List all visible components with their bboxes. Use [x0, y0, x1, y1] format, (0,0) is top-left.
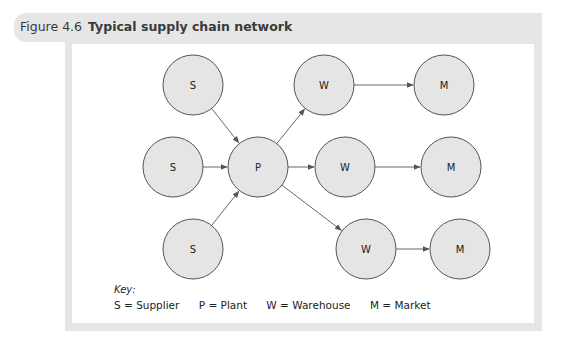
node-label: S	[190, 244, 196, 255]
node-label: W	[340, 162, 350, 173]
node-label: S	[190, 80, 196, 91]
node-s2: S	[143, 137, 203, 197]
key-item-market: M = Market	[370, 299, 431, 311]
node-m2: M	[421, 137, 481, 197]
node-w1: W	[294, 55, 354, 115]
node-label: W	[319, 80, 329, 91]
node-label: S	[170, 162, 176, 173]
node-label: P	[255, 162, 261, 173]
node-p: P	[228, 137, 288, 197]
key-item-supplier: S = Supplier	[114, 299, 179, 311]
node-label: M	[440, 80, 449, 91]
key-legend: S = Supplier P = Plant W = Warehouse M =…	[114, 299, 447, 311]
node-w3: W	[336, 219, 396, 279]
key-label: Key:	[114, 284, 136, 295]
nodes-group: SSSPWWWMMM	[143, 55, 490, 279]
node-s1: S	[163, 55, 223, 115]
node-label: W	[361, 244, 371, 255]
node-w2: W	[315, 137, 375, 197]
edge-s3-to-p	[212, 191, 239, 225]
node-m1: M	[414, 55, 474, 115]
supply-chain-diagram: SSSPWWWMMM	[0, 0, 567, 341]
node-label: M	[447, 162, 456, 173]
node-label: M	[456, 244, 465, 255]
edge-s1-to-p	[212, 109, 239, 143]
node-m3: M	[430, 219, 490, 279]
node-s3: S	[163, 219, 223, 279]
edge-p-to-w1	[277, 109, 305, 143]
key-item-plant: P = Plant	[199, 299, 247, 311]
key-item-warehouse: W = Warehouse	[266, 299, 350, 311]
